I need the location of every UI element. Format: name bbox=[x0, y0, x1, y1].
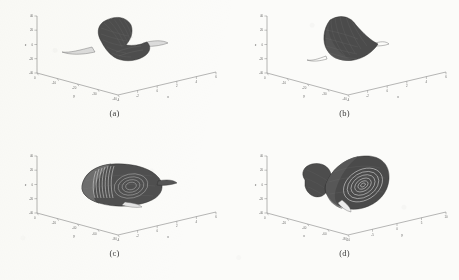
figure-4-panel-surface-plots: 40 20 0 -20 -40 z 0 -10 -20 -30 bbox=[0, 0, 459, 280]
plot-a-svg: 40 20 0 -20 -40 z 0 -10 -20 -30 bbox=[0, 0, 229, 112]
plot-c-svg: 40 20 0 -20 -40 z 0 -20 -40 -60 -80 bbox=[0, 140, 229, 252]
panel-a-caption: (a) bbox=[0, 108, 229, 118]
z-tick-c-2: 0 bbox=[32, 183, 34, 187]
y-axis-label-a: y bbox=[73, 94, 75, 98]
y-tick-b-2: -20 bbox=[302, 86, 307, 90]
x-tick-b-2: 0 bbox=[386, 89, 388, 93]
z-tick-b-0: 40 bbox=[260, 14, 264, 18]
x-axis-label-a: x bbox=[167, 95, 169, 99]
surface-b bbox=[307, 16, 389, 61]
x-tick-a-4: 4 bbox=[196, 80, 198, 84]
z-tick-c-1: 20 bbox=[30, 168, 34, 172]
z-tick-a-1: 20 bbox=[30, 28, 34, 32]
surface-a bbox=[62, 17, 168, 60]
z-tick-c-4: -40 bbox=[29, 211, 34, 215]
y-axis-label-b: y bbox=[303, 94, 305, 98]
y-tick-c-3: -60 bbox=[92, 232, 97, 236]
x-axis-label-c: x bbox=[167, 235, 169, 239]
panel-c-caption: (c) bbox=[0, 248, 229, 258]
y-tick-c-0: 0 bbox=[34, 216, 36, 220]
y-tick-a-3: -30 bbox=[92, 92, 97, 96]
z-tick-a-0: 40 bbox=[30, 14, 34, 18]
panel-a: 40 20 0 -20 -40 z 0 -10 -20 -30 bbox=[0, 0, 229, 140]
z-tick-a-4: -40 bbox=[29, 71, 34, 75]
y-axis-label-d: y bbox=[401, 233, 403, 237]
x-tick-c-1: -2 bbox=[136, 234, 139, 238]
plot-c: 40 20 0 -20 -40 z 0 -20 -40 -60 -80 bbox=[0, 140, 229, 252]
plot-a: 40 20 0 -20 -40 z 0 -10 -20 -30 bbox=[0, 0, 229, 112]
z-tick-d-2: 0 bbox=[262, 183, 264, 187]
x-tick-c-0: -4 bbox=[117, 238, 120, 242]
x-tick-c-5: 6 bbox=[215, 215, 217, 219]
z-tick-b-4: -40 bbox=[259, 71, 264, 75]
z-axis-label-a: z bbox=[25, 43, 27, 47]
x-tick-b-0: -4 bbox=[347, 98, 350, 102]
x-tick-a-2: 0 bbox=[156, 89, 158, 93]
z-tick-d-4: -40 bbox=[259, 211, 264, 215]
x-tick-b-4: 4 bbox=[426, 80, 428, 84]
y-tick-b-1: -10 bbox=[282, 81, 287, 85]
z-tick-a-3: -20 bbox=[29, 57, 34, 61]
z-tick-a-2: 0 bbox=[32, 43, 34, 47]
x-tick-d-3: 5 bbox=[421, 221, 423, 225]
plot-d-svg: 40 20 0 -20 -40 z 0 -20 -40 -60 -80 bbox=[230, 140, 459, 252]
x-tick-a-0: -4 bbox=[117, 98, 120, 102]
x-tick-c-2: 0 bbox=[156, 229, 158, 233]
panel-d-caption: (d) bbox=[230, 248, 459, 258]
panel-c: 40 20 0 -20 -40 z 0 -20 -40 -60 -80 bbox=[0, 140, 229, 280]
plot-d: 40 20 0 -20 -40 z 0 -20 -40 -60 -80 bbox=[230, 140, 459, 252]
surface-c bbox=[82, 164, 177, 208]
y-axis-label-d-left: x bbox=[303, 234, 305, 238]
x-tick-d-1: -5 bbox=[371, 233, 374, 237]
z-tick-d-1: 20 bbox=[260, 168, 264, 172]
y-axis-label-c: y bbox=[73, 234, 75, 238]
z-tick-c-3: -20 bbox=[29, 197, 34, 201]
x-tick-a-3: 2 bbox=[176, 84, 178, 88]
z-axis-label-b: z bbox=[255, 43, 257, 47]
z-tick-d-0: 40 bbox=[260, 154, 264, 158]
y-tick-a-0: 0 bbox=[34, 76, 36, 80]
panel-b-caption: (b) bbox=[230, 108, 459, 118]
x-tick-d-2: 0 bbox=[396, 227, 398, 231]
z-tick-d-3: -20 bbox=[259, 197, 264, 201]
z-tick-b-3: -20 bbox=[259, 57, 264, 61]
z-tick-b-1: 20 bbox=[260, 28, 264, 32]
z-axis-label-d: z bbox=[255, 183, 257, 187]
y-tick-a-1: -10 bbox=[52, 81, 57, 85]
x-tick-c-3: 2 bbox=[176, 224, 178, 228]
y-tick-a-2: -20 bbox=[72, 86, 77, 90]
x-axis-label-b: x bbox=[397, 95, 399, 99]
y-tick-d-2: -40 bbox=[302, 226, 307, 230]
y-tick-b-0: 0 bbox=[264, 76, 266, 80]
x-tick-d-0: -10 bbox=[346, 238, 351, 242]
x-tick-c-4: 4 bbox=[196, 220, 198, 224]
panel-b: 40 20 0 -20 -40 z 0 -10 -20 -30 -40 bbox=[230, 0, 459, 140]
x-tick-b-3: 2 bbox=[406, 84, 408, 88]
x-tick-b-5: 6 bbox=[445, 75, 447, 79]
z-tick-c-0: 40 bbox=[30, 154, 34, 158]
x-tick-a-1: -2 bbox=[136, 94, 139, 98]
surface-d bbox=[303, 156, 389, 212]
plot-b: 40 20 0 -20 -40 z 0 -10 -20 -30 -40 bbox=[230, 0, 459, 112]
y-tick-d-1: -20 bbox=[282, 221, 287, 225]
x-tick-b-1: -2 bbox=[366, 94, 369, 98]
y-tick-c-1: -20 bbox=[52, 221, 57, 225]
z-axis-label-c: z bbox=[25, 183, 27, 187]
x-tick-a-5: 6 bbox=[215, 75, 217, 79]
x-tick-d-4: 10 bbox=[444, 215, 448, 219]
plot-b-svg: 40 20 0 -20 -40 z 0 -10 -20 -30 -40 bbox=[230, 0, 459, 112]
y-tick-d-0: 0 bbox=[264, 216, 266, 220]
y-tick-c-2: -40 bbox=[72, 226, 77, 230]
panel-d: 40 20 0 -20 -40 z 0 -20 -40 -60 -80 bbox=[230, 140, 459, 280]
y-tick-b-3: -30 bbox=[322, 92, 327, 96]
z-tick-b-2: 0 bbox=[262, 43, 264, 47]
y-tick-d-3: -60 bbox=[322, 232, 327, 236]
